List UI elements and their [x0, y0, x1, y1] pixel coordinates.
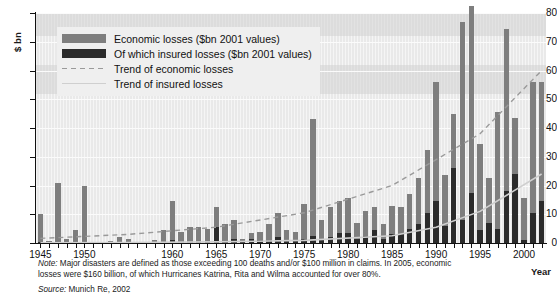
x-axis-line	[35, 243, 547, 244]
x-axis-tick	[216, 244, 217, 248]
x-axis-tick	[76, 244, 77, 248]
x-axis-tick	[410, 244, 411, 248]
note-paragraph: Note: Major disasters are defined as tho…	[38, 258, 468, 280]
x-axis-tick	[392, 244, 393, 248]
x-axis-tick	[383, 244, 384, 248]
legend-item-trend-economic: Trend of economic losses	[62, 61, 312, 76]
legend-label-trend-economic: Trend of economic losses	[114, 63, 233, 75]
x-axis-tick	[533, 244, 534, 248]
trend-insured-line	[40, 174, 541, 243]
footnotes: Note: Major disasters are defined as tho…	[38, 258, 468, 294]
x-axis-tick	[489, 244, 490, 248]
x-axis-tick	[40, 244, 41, 248]
x-axis-tick	[462, 244, 463, 248]
y-axis-tick-label: 10	[531, 208, 557, 219]
x-axis-tick	[454, 244, 455, 248]
legend-swatch-economic-icon	[62, 34, 106, 43]
y-axis-tick	[30, 128, 35, 129]
x-axis-tick	[128, 244, 129, 248]
x-axis-tick	[58, 244, 59, 248]
y-axis-tick	[30, 186, 35, 187]
x-axis-tick	[190, 244, 191, 248]
x-axis-tick	[111, 244, 112, 248]
x-axis-tick	[287, 244, 288, 248]
source-text: Munich Re, 2002	[66, 285, 130, 294]
x-axis-tick	[199, 244, 200, 248]
x-axis-tick	[524, 244, 525, 248]
x-axis-tick	[251, 244, 252, 248]
y-axis-tick-label: 30	[531, 151, 557, 162]
x-axis-tick	[269, 244, 270, 248]
x-axis-tick	[401, 244, 402, 248]
y-axis-tick-label: 50	[531, 93, 557, 104]
chart-legend: Economic losses ($bn 2001 values) Of whi…	[57, 27, 320, 96]
y-axis-tick	[30, 99, 35, 100]
x-axis-tick	[155, 244, 156, 248]
x-axis-tick	[172, 244, 173, 248]
legend-label-trend-insured: Trend of insured losses	[114, 78, 223, 90]
x-axis-tick	[313, 244, 314, 248]
y-axis-line	[35, 12, 36, 244]
x-axis-tick	[445, 244, 446, 248]
x-axis-tick	[137, 244, 138, 248]
x-axis-tick	[260, 244, 261, 248]
y-axis-tick	[30, 13, 35, 14]
y-axis-tick	[30, 157, 35, 158]
x-axis-tick	[295, 244, 296, 248]
x-axis-tick	[304, 244, 305, 248]
legend-item-economic-losses: Economic losses ($bn 2001 values)	[62, 31, 312, 46]
legend-swatch-insured-icon	[62, 49, 106, 58]
x-axis-tick	[146, 244, 147, 248]
legend-item-trend-insured: Trend of insured losses	[62, 76, 312, 91]
y-axis-tick-label: 70	[531, 36, 557, 47]
x-axis-title: Year	[531, 266, 551, 277]
x-axis-tick	[348, 244, 349, 248]
x-axis-tick	[120, 244, 121, 248]
y-axis-title: $ bn	[12, 38, 23, 52]
x-axis-tick-label: 2000	[513, 249, 535, 260]
x-axis-tick	[181, 244, 182, 248]
x-axis-tick	[49, 244, 50, 248]
x-axis-tick	[375, 244, 376, 248]
x-axis-tick	[339, 244, 340, 248]
x-axis-tick	[67, 244, 68, 248]
x-axis-tick	[93, 244, 94, 248]
x-axis-tick	[234, 244, 235, 248]
x-axis-tick	[164, 244, 165, 248]
x-axis-tick	[471, 244, 472, 248]
x-axis-tick	[498, 244, 499, 248]
source-paragraph: Source: Munich Re, 2002	[38, 285, 468, 294]
y-axis-tick	[30, 42, 35, 43]
x-axis-tick	[331, 244, 332, 248]
legend-label-insured: Of which insured losses ($bn 2001 values…	[114, 48, 312, 60]
x-axis-tick	[436, 244, 437, 248]
x-axis-tick-label: 1995	[469, 249, 491, 260]
x-axis-tick	[366, 244, 367, 248]
x-axis-tick	[243, 244, 244, 248]
note-label: Note:	[38, 259, 58, 268]
y-axis-tick-label: 0	[531, 237, 557, 248]
x-axis-tick	[506, 244, 507, 248]
x-axis-tick	[278, 244, 279, 248]
y-axis-tick-label: 80	[531, 7, 557, 18]
y-axis-tick	[30, 71, 35, 72]
x-axis-tick	[322, 244, 323, 248]
y-axis-tick-label: 20	[531, 180, 557, 191]
x-axis-tick	[102, 244, 103, 248]
note-text: Major disasters are defined as those exc…	[38, 259, 451, 279]
x-axis-tick	[515, 244, 516, 248]
x-axis-tick	[427, 244, 428, 248]
x-axis-tick	[84, 244, 85, 248]
legend-dashed-line-icon	[62, 64, 106, 73]
legend-solid-line-icon	[62, 79, 106, 88]
y-axis-tick	[30, 243, 35, 244]
x-axis-tick	[480, 244, 481, 248]
x-axis-tick	[419, 244, 420, 248]
y-axis-tick-label: 40	[531, 122, 557, 133]
y-axis-tick	[30, 214, 35, 215]
x-axis-tick	[207, 244, 208, 248]
x-axis-tick	[542, 244, 543, 248]
x-axis-tick	[357, 244, 358, 248]
source-label: Source:	[38, 285, 66, 294]
